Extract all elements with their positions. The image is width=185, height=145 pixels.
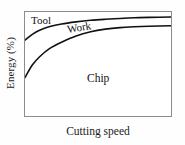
energy-distribution-chart: Energy (%) Tool Work Chip Cutting speed <box>0 0 185 145</box>
region-label-chip: Chip <box>87 72 109 84</box>
region-label-tool: Tool <box>31 14 51 26</box>
work-chip-boundary-curve <box>25 26 171 78</box>
x-axis-label: Cutting speed <box>24 124 172 138</box>
curves-svg <box>25 12 171 116</box>
plot-area: Tool Work Chip <box>24 11 172 117</box>
y-axis-label: Energy (%) <box>3 8 17 118</box>
